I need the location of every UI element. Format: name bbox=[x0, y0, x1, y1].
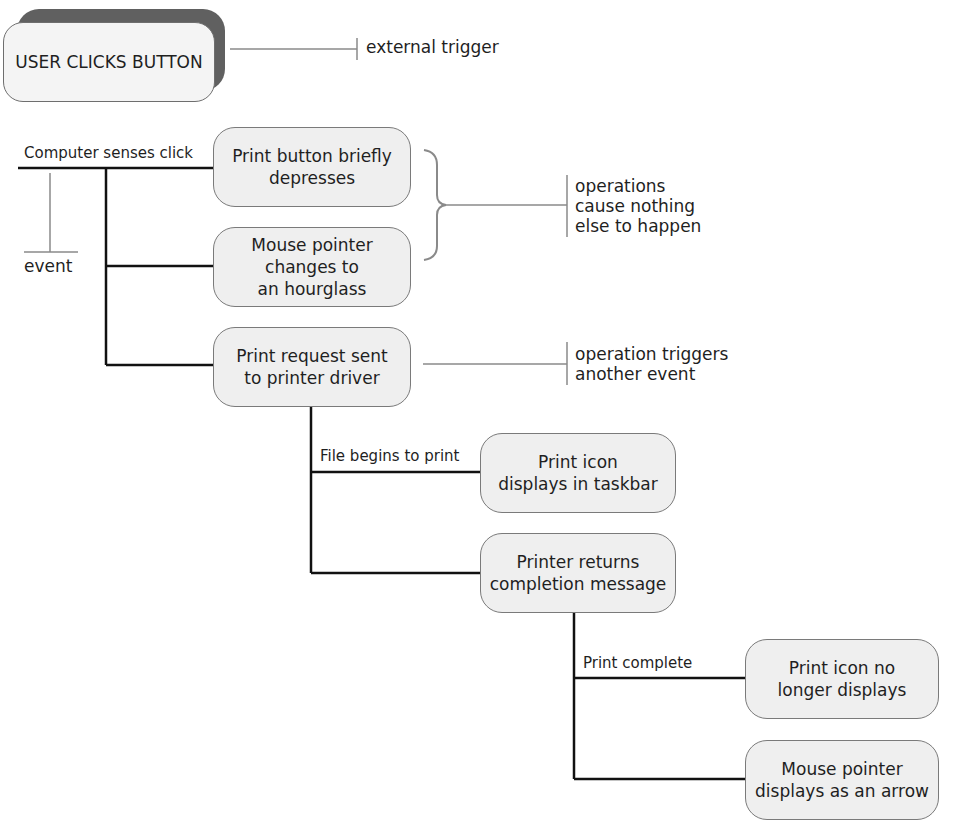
node-printer-returns: Printer returns completion message bbox=[480, 533, 676, 613]
trigger-node-label: USER CLICKS BUTTON bbox=[15, 52, 202, 72]
node-print-icon-gone: Print icon no longer displays bbox=[745, 639, 939, 719]
node-label: Print request sent to printer driver bbox=[236, 345, 387, 389]
node-print-button-depresses: Print button briefly depresses bbox=[213, 127, 411, 207]
triggers-connector bbox=[423, 342, 567, 385]
node-pointer-arrow: Mouse pointer displays as an arrow bbox=[745, 740, 939, 820]
computer-senses-click-label: Computer senses click bbox=[24, 144, 193, 162]
event-marker bbox=[24, 173, 78, 252]
node-print-icon-taskbar: Print icon displays in taskbar bbox=[480, 433, 676, 513]
event-flow-diagram: USER CLICKS BUTTON external trigger Comp… bbox=[0, 0, 955, 836]
file-begins-label: File begins to print bbox=[320, 447, 459, 465]
external-trigger-connector bbox=[230, 38, 357, 60]
print-complete-label: Print complete bbox=[583, 654, 692, 672]
no-effect-annotation: operations cause nothing else to happen bbox=[575, 176, 701, 236]
event-label: event bbox=[24, 256, 72, 276]
node-print-request-sent: Print request sent to printer driver bbox=[213, 327, 411, 407]
node-label: Printer returns completion message bbox=[490, 551, 667, 595]
no-effect-connector bbox=[446, 175, 567, 237]
triggers-annotation: operation triggers another event bbox=[575, 344, 728, 384]
grouping-brace bbox=[424, 150, 446, 260]
node-pointer-hourglass: Mouse pointer changes to an hourglass bbox=[213, 227, 411, 307]
external-trigger-label: external trigger bbox=[366, 37, 499, 57]
node-label: Mouse pointer displays as an arrow bbox=[755, 758, 929, 802]
event-trunk-2 bbox=[311, 406, 480, 573]
node-label: Mouse pointer changes to an hourglass bbox=[251, 234, 372, 300]
node-label: Print icon no longer displays bbox=[778, 657, 907, 701]
node-label: Print icon displays in taskbar bbox=[498, 451, 658, 495]
trigger-node: USER CLICKS BUTTON bbox=[3, 22, 215, 102]
node-label: Print button briefly depresses bbox=[232, 145, 392, 189]
event-trunk-3 bbox=[574, 612, 745, 779]
